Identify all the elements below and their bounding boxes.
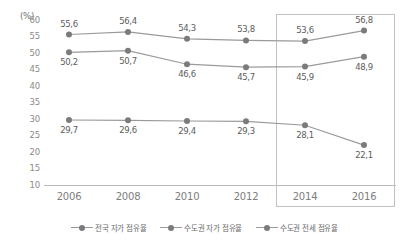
chart-legend: 전국 자가 점유율수도권 자가 점유율수도권 전세 점유율 <box>0 222 409 233</box>
data-label: 45,9 <box>285 72 325 82</box>
data-label: 56,4 <box>108 16 148 26</box>
data-label: 45,7 <box>226 72 266 82</box>
legend-marker-icon <box>160 223 182 232</box>
legend-label: 수도권 전세 점유율 <box>280 222 338 233</box>
legend-label: 전국 자가 점유율 <box>95 222 146 233</box>
data-label: 29,4 <box>167 126 207 136</box>
data-label: 29,3 <box>226 126 266 136</box>
data-point <box>184 36 190 42</box>
data-point <box>66 117 72 123</box>
data-point <box>361 142 367 148</box>
data-point <box>361 28 367 34</box>
data-label: 48,9 <box>344 62 384 72</box>
data-label: 53,6 <box>285 25 325 35</box>
data-point <box>243 64 249 70</box>
data-label: 53,8 <box>226 24 266 34</box>
data-point <box>184 118 190 124</box>
legend-item-1[interactable]: 수도권 자가 점유율 <box>160 222 242 233</box>
data-point <box>125 29 131 35</box>
chart-container: (%) 6055504540353025201510 55,656,454,35… <box>0 0 409 243</box>
data-label: 50,7 <box>108 56 148 66</box>
series-plot-layer <box>0 0 409 243</box>
data-point <box>66 32 72 38</box>
data-label: 54,3 <box>167 23 207 33</box>
data-label: 56,8 <box>344 15 384 25</box>
data-label: 29,7 <box>49 125 89 135</box>
data-point <box>184 61 190 67</box>
x-axis-tick-2010: 2010 <box>162 191 212 202</box>
data-label: 55,6 <box>49 19 89 29</box>
x-axis-tick-2014: 2014 <box>280 191 330 202</box>
data-point <box>361 54 367 60</box>
data-label: 29,6 <box>108 125 148 135</box>
x-axis-tick-2012: 2012 <box>221 191 271 202</box>
data-point <box>125 48 131 54</box>
data-label: 28,1 <box>285 130 325 140</box>
x-axis-tick-2006: 2006 <box>44 191 94 202</box>
legend-item-0[interactable]: 전국 자가 점유율 <box>71 222 146 233</box>
data-point <box>302 38 308 44</box>
x-axis-tick-2016: 2016 <box>339 191 389 202</box>
data-point <box>243 37 249 43</box>
data-point <box>302 64 308 70</box>
data-point <box>66 49 72 55</box>
legend-label: 수도권 자가 점유율 <box>184 222 242 233</box>
data-label: 22,1 <box>344 150 384 160</box>
legend-marker-icon <box>256 223 278 232</box>
data-point <box>302 122 308 128</box>
data-point <box>125 117 131 123</box>
legend-marker-icon <box>71 223 93 232</box>
x-axis-tick-2008: 2008 <box>103 191 153 202</box>
data-point <box>243 118 249 124</box>
data-label: 46,6 <box>167 69 207 79</box>
legend-item-2[interactable]: 수도권 전세 점유율 <box>256 222 338 233</box>
data-label: 50,2 <box>49 57 89 67</box>
